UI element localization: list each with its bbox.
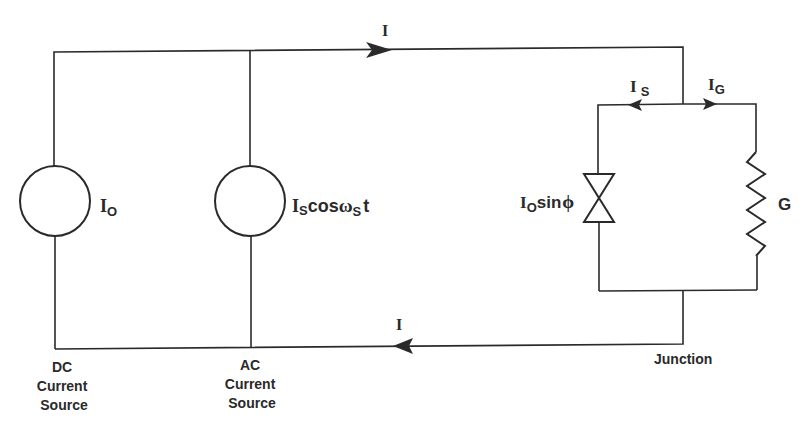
dc-source-label: IO — [100, 196, 117, 219]
top-wire — [54, 47, 683, 166]
ac-source-label: IScosωSt — [292, 195, 369, 219]
bottom-current-label: I — [396, 316, 402, 333]
loop-bottom-wire — [599, 290, 757, 291]
ac-caption: AC Current Source — [225, 357, 279, 411]
circuit-diagram: I IO IScosωSt I IS IG IOsinϕ G DC Curren… — [0, 0, 812, 427]
circuit-svg: I IO IScosωSt I IS IG IOsinϕ G DC Curren… — [0, 0, 812, 427]
ac-source-icon — [215, 166, 285, 236]
is-label: IS — [630, 77, 650, 99]
resistor-branch-wire — [683, 104, 756, 152]
dc-source-icon — [20, 166, 90, 236]
bottom-wire — [55, 290, 683, 349]
junction-label: IOsinϕ — [520, 191, 574, 215]
dc-caption: DC Current Source — [37, 359, 91, 413]
junction-caption: Junction — [654, 351, 712, 367]
junction-branch-wire — [598, 104, 683, 174]
ig-label: IG — [708, 75, 725, 97]
resistor-icon — [747, 152, 765, 256]
josephson-junction-icon — [584, 174, 614, 222]
top-current-label: I — [382, 22, 388, 39]
resistor-label: G — [778, 195, 791, 214]
